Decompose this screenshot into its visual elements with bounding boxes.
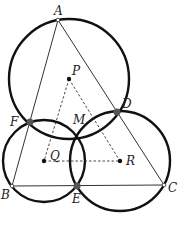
label-p: P xyxy=(71,64,81,78)
point-c-marker xyxy=(162,183,166,187)
label-f: F xyxy=(9,115,19,129)
label-c: C xyxy=(168,181,177,195)
label-m: M xyxy=(72,113,86,127)
label-r: R xyxy=(125,154,135,168)
point-q-marker xyxy=(42,159,46,163)
point-e-marker xyxy=(74,183,81,190)
label-e: E xyxy=(71,192,81,206)
label-a: A xyxy=(53,4,63,18)
point-d-marker xyxy=(114,109,121,116)
label-q: Q xyxy=(50,149,60,163)
label-b: B xyxy=(0,188,10,202)
geometry-diagram: A P D F M Q R B E C xyxy=(0,0,182,235)
point-f-marker xyxy=(27,119,34,126)
point-a-marker xyxy=(56,18,60,22)
point-r-marker xyxy=(118,159,122,163)
point-p-marker xyxy=(67,77,71,81)
point-b-marker xyxy=(10,184,14,188)
label-d: D xyxy=(121,97,132,111)
triangle-abc xyxy=(12,20,164,186)
